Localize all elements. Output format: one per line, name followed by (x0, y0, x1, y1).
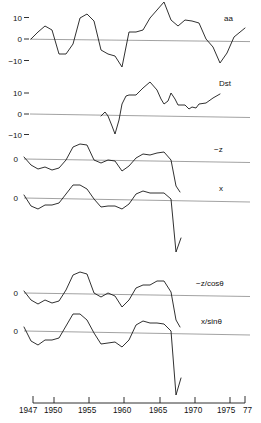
panel-x-zero-baseline (24, 198, 250, 202)
x-axis: 1947 1950 1955 1960 1965 1970 1975 77 (19, 396, 253, 415)
x-axis-label-1977: 77 (243, 406, 253, 415)
panel-aa-label: aa (224, 14, 233, 23)
x-axis-label-1947: 1947 (19, 406, 38, 415)
geomagnetic-time-series-figure: 10 0 −10 aa 10 0 −10 Dst 0 −z (0, 0, 261, 423)
panel-minus-z-over-cos-theta-ytick-0: 0 (14, 289, 19, 298)
x-axis-label-1955: 1955 (78, 406, 97, 415)
x-axis-label-1965: 1965 (149, 406, 168, 415)
panel-x-label: x (219, 184, 223, 193)
panel-minus-z-ytick-0: 0 (14, 155, 19, 164)
panel-aa-ytick-neg10: −10 (8, 57, 22, 66)
panel-minus-z-over-cos-theta-curve (24, 272, 180, 327)
x-axis-label-1960: 1960 (113, 406, 132, 415)
panel-dst-ytick-10: 10 (13, 89, 22, 98)
panel-minus-z-curve (24, 144, 180, 192)
panel-aa-curve (31, 2, 245, 67)
panel-aa-zero-baseline (30, 39, 250, 41)
panel-minus-z: 0 −z (14, 144, 250, 192)
panel-dst-ytick-neg10: −10 (8, 131, 22, 140)
panel-dst-curve (101, 82, 220, 134)
x-axis-label-1970: 1970 (184, 406, 203, 415)
x-axis-label-1950: 1950 (44, 406, 63, 415)
panel-minus-z-over-cos-theta-label: −z/cosθ (196, 279, 224, 288)
panel-dst-ytick-0: 0 (18, 110, 23, 119)
chart-svg: 10 0 −10 aa 10 0 −10 Dst 0 −z (0, 0, 261, 423)
panel-aa-ytick-10: 10 (13, 14, 22, 23)
panel-x: 0 x (14, 184, 250, 252)
panel-x-curve (24, 185, 181, 252)
panel-x-over-sin-theta: 0 x/sinθ (14, 314, 250, 395)
panel-minus-z-label: −z (214, 145, 223, 154)
panel-x-over-sin-theta-label: x/sinθ (201, 317, 222, 326)
panel-minus-z-zero-baseline (24, 159, 250, 163)
panel-x-over-sin-theta-ytick-0: 0 (14, 327, 19, 336)
x-axis-label-1975: 1975 (217, 406, 236, 415)
panel-dst-label: Dst (219, 79, 232, 88)
panel-x-over-sin-theta-curve (24, 314, 181, 395)
panel-aa: 10 0 −10 aa (8, 2, 250, 67)
panel-x-ytick-0: 0 (14, 194, 19, 203)
panel-minus-z-over-cos-theta-zero-baseline (24, 293, 250, 297)
panel-dst: 10 0 −10 Dst (8, 79, 250, 140)
panel-x-over-sin-theta-zero-baseline (24, 331, 250, 335)
panel-aa-ytick-0: 0 (18, 35, 23, 44)
panel-dst-zero-baseline (30, 114, 250, 118)
